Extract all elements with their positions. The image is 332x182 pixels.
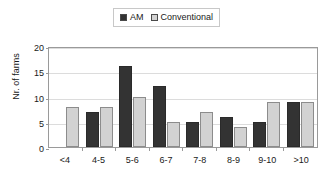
bar-conv [301, 102, 314, 147]
bar-conv [100, 107, 113, 147]
bar-conv [267, 102, 280, 147]
legend-entry-conventional: Conventional [151, 13, 214, 22]
x-tick-label: >10 [284, 155, 318, 165]
x-tick-mark [182, 147, 183, 151]
bar-group [284, 48, 318, 147]
x-tick-mark [115, 147, 116, 151]
x-tick-mark [216, 147, 217, 151]
bar-conv [66, 107, 79, 147]
bar-am [186, 122, 199, 147]
bar-am [253, 122, 266, 147]
x-tick-mark [249, 147, 250, 151]
x-tick-mark [283, 147, 284, 151]
x-tick-label: 9-10 [251, 155, 285, 165]
bar-am [287, 102, 300, 147]
x-tick-label: 6-7 [149, 155, 183, 165]
light-square-icon [151, 14, 158, 21]
bar-conv [200, 112, 213, 147]
bar-am [220, 117, 233, 147]
legend-label-am: AM [130, 13, 144, 22]
y-axis-title: Nr. of farms [12, 37, 21, 117]
bar-group [250, 48, 284, 147]
dark-square-icon [120, 14, 127, 21]
x-tick-label: <4 [48, 155, 82, 165]
legend-label-conventional: Conventional [161, 13, 214, 22]
legend-entry-am: AM [120, 13, 144, 22]
bar-am [119, 66, 132, 147]
bar-group [83, 48, 117, 147]
chart-legend: AM Conventional [113, 8, 220, 27]
x-tick-mark [149, 147, 150, 151]
bar-chart: AM Conventional Nr. of farms 05101520 <4… [0, 0, 332, 182]
y-tick-mark [46, 149, 49, 150]
x-tick-label: 8-9 [217, 155, 251, 165]
plot-area: 05101520 [48, 47, 318, 148]
bar-conv [234, 127, 247, 147]
x-tick-label: 5-6 [116, 155, 150, 165]
x-tick-label: 4-5 [82, 155, 116, 165]
x-tick-label: 7-8 [183, 155, 217, 165]
bar-groups [49, 48, 317, 147]
bar-conv [133, 97, 146, 148]
bar-group [217, 48, 251, 147]
x-axis-labels: <44-55-66-77-88-99-10>10 [48, 155, 318, 165]
bar-group [116, 48, 150, 147]
bar-conv [167, 122, 180, 147]
bar-group [150, 48, 184, 147]
bar-am [153, 86, 166, 147]
bar-group [49, 48, 83, 147]
bar-group [183, 48, 217, 147]
x-tick-mark [82, 147, 83, 151]
bar-am [86, 112, 99, 147]
